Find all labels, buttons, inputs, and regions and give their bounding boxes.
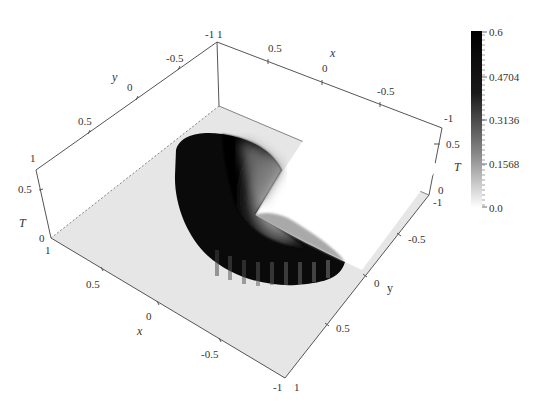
front-y-tick-label: 0 [374,277,380,289]
back-x-tick-label: 0.5 [268,42,282,54]
front-y-tick-label: -1 [433,196,442,208]
front-y-axis-title: y [387,281,393,295]
colorbar-tick-label: 0.4704 [489,71,520,83]
right-T-tick-label: 0 [438,184,444,196]
colorbar-tick-label: 0.1568 [489,158,520,170]
back-vertical-edge [217,42,219,106]
front-x-tick-label: 0.5 [86,278,100,290]
back-x-tick-label: -1 [444,112,453,124]
left-T-tick-label: 0 [39,232,45,244]
colorbar-tick-label: 0.0 [489,202,503,214]
back-y-tick-label: -0.5 [166,52,184,64]
back-x-tick-label: 0 [322,62,328,74]
front-x-tick-label: 0 [146,310,152,322]
right-T-axis-title: T [454,160,462,174]
colorbar-gradient [471,31,482,208]
back-y-tick-label: 0 [127,81,133,93]
back-x-tick-label: -0.5 [377,85,395,97]
back-corner-label: -1 1 [205,28,222,40]
front-y-tick-label: 0.5 [336,322,350,334]
left-T-tick-05 [39,189,43,190]
back-y-tick-label: 1 [30,152,36,164]
back-y-axis-title: y [111,70,118,84]
right-T-tick-label: 0.5 [446,138,460,150]
back-x-axis-title: x [329,46,336,60]
colorbar-tick-label: 0.6 [489,26,503,38]
front-y-tick-label: 1 [294,381,300,393]
left-T-tick-label: 0.5 [18,183,32,195]
surface-plot: -1 1 0.5 0 x -0.5 -1 -0.5 0 y 0.5 1 0.5 … [0,0,536,408]
back-y-tick-label: 0.5 [78,115,92,127]
colorbar-major-ticks [482,32,487,207]
front-x-tick-label: -1 [273,381,282,393]
colorbar-tick-label: 0.3136 [489,114,520,126]
left-T-axis-line [36,170,51,238]
colorbar: 0.6 0.4704 0.3136 0.1568 0.0 [471,26,520,214]
front-y-tick-label: -0.5 [408,233,426,245]
front-x-axis-title: x [136,324,143,338]
left-T-axis-title: T [19,216,27,230]
front-x-tick-label: -0.5 [201,348,219,360]
front-x-tick-label: 1 [45,244,51,256]
